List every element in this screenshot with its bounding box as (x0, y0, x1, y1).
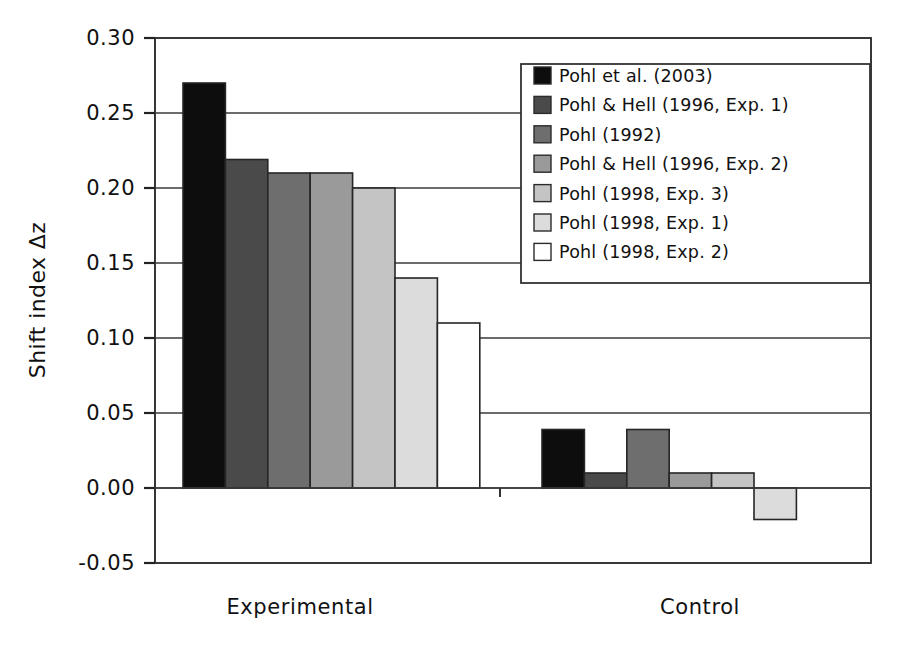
x-category-label-control: Control (660, 595, 740, 619)
bar (669, 473, 711, 488)
bar (627, 430, 669, 489)
y-axis-tick-label: 0.25 (86, 101, 135, 125)
bar (353, 188, 395, 488)
legend: Pohl et al. (2003)Pohl & Hell (1996, Exp… (521, 64, 870, 283)
bar (754, 488, 796, 520)
y-axis-tick-label: -0.05 (78, 551, 135, 575)
bar (268, 173, 310, 488)
y-axis-tick-label: 0.00 (86, 476, 135, 500)
legend-swatch (534, 185, 551, 202)
legend-label: Pohl (1998, Exp. 3) (559, 184, 729, 204)
legend-label: Pohl (1998, Exp. 2) (559, 242, 729, 262)
legend-swatch (534, 243, 551, 260)
legend-label: Pohl (1998, Exp. 1) (559, 213, 729, 233)
bar (584, 473, 626, 488)
y-axis-tick-label: 0.05 (86, 401, 135, 425)
legend-swatch (534, 67, 551, 84)
legend-swatch (534, 214, 551, 231)
legend-label: Pohl et al. (2003) (559, 66, 713, 86)
legend-swatch (534, 155, 551, 172)
y-axis-title: Shift index Δz (25, 222, 50, 378)
y-axis-tick-label: 0.30 (86, 26, 135, 50)
legend-label: Pohl & Hell (1996, Exp. 1) (559, 95, 789, 115)
bar-chart-figure: 0.300.250.200.150.100.050.00-0.05 Experi… (0, 0, 897, 650)
y-axis-tick-label: 0.10 (86, 326, 135, 350)
chart-canvas: 0.300.250.200.150.100.050.00-0.05 Experi… (0, 0, 897, 650)
bar (225, 160, 267, 489)
x-category-label-experimental: Experimental (226, 595, 373, 619)
bar (183, 83, 225, 488)
bar (437, 323, 479, 488)
y-axis-ticks-group: 0.300.250.200.150.100.050.00-0.05 (78, 26, 155, 575)
legend-swatch (534, 96, 551, 113)
y-axis-tick-label: 0.20 (86, 176, 135, 200)
bar (395, 278, 437, 488)
legend-label: Pohl & Hell (1996, Exp. 2) (559, 154, 789, 174)
legend-swatch (534, 126, 551, 143)
y-axis-tick-label: 0.15 (86, 251, 135, 275)
legend-label: Pohl (1992) (559, 125, 662, 145)
bar (542, 430, 584, 489)
bar (712, 473, 754, 488)
bar (310, 173, 352, 488)
